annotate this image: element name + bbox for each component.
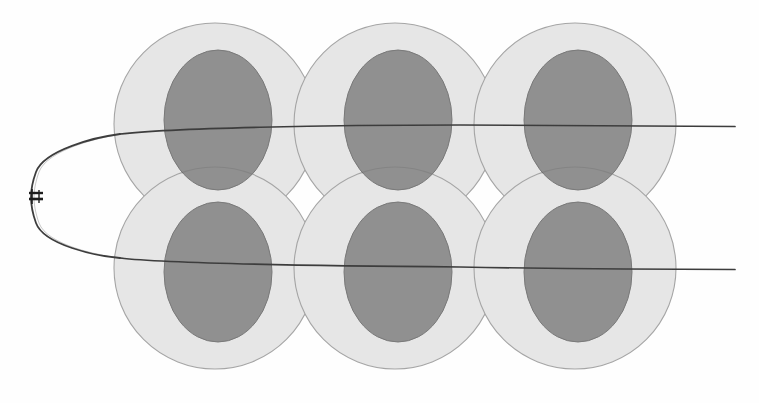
diagram-canvas: Overlapping circular regions traversed b… xyxy=(0,0,759,403)
paper-grain-overlay xyxy=(0,0,759,403)
diagram-svg xyxy=(0,0,759,403)
